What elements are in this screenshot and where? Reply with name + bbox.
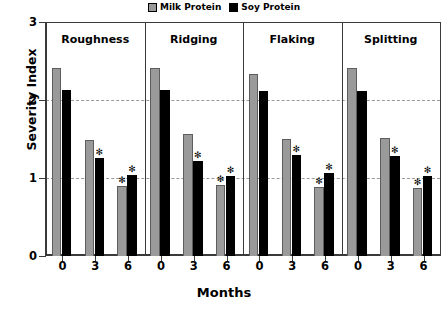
x-tick-label: 3 [85, 259, 105, 273]
x-tick-mark [128, 256, 129, 261]
x-tick-label: 6 [414, 259, 434, 273]
x-tick-mark [95, 256, 96, 261]
x-axis-title: Months [0, 285, 448, 300]
x-tick-mark [259, 256, 260, 261]
x-tick-mark [292, 256, 293, 261]
x-tick-label: 0 [249, 259, 269, 273]
x-tick-label: 3 [381, 259, 401, 273]
x-tick-mark [358, 256, 359, 261]
x-tick-mark [325, 256, 326, 261]
x-axis-ticks: 036036036036 [0, 0, 448, 309]
x-tick-label: 6 [118, 259, 138, 273]
severity-index-bar-chart: Milk Protein Soy Protein Severity Index … [0, 0, 448, 309]
x-tick-label: 6 [217, 259, 237, 273]
x-tick-mark [62, 256, 63, 261]
x-tick-label: 0 [151, 259, 171, 273]
x-tick-label: 6 [315, 259, 335, 273]
x-tick-mark [227, 256, 228, 261]
x-tick-mark [194, 256, 195, 261]
x-tick-label: 0 [52, 259, 72, 273]
x-tick-mark [391, 256, 392, 261]
x-tick-mark [424, 256, 425, 261]
x-tick-label: 0 [348, 259, 368, 273]
x-tick-label: 3 [282, 259, 302, 273]
x-tick-mark [161, 256, 162, 261]
x-tick-label: 3 [184, 259, 204, 273]
